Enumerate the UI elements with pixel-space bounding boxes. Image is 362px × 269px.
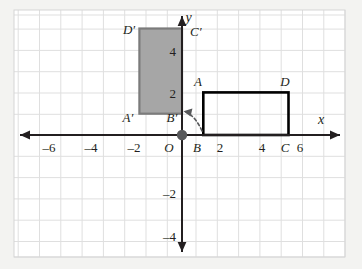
y-axis-label: y	[184, 10, 193, 25]
coordinate-plane-svg: y x –6 –4 –2 2 4 6 4 2 –2 –4 O D′ C′ A′ …	[0, 0, 362, 269]
vertex-label-b-prime: B′	[167, 110, 178, 125]
vertex-label-b: B	[193, 140, 201, 155]
y-tick-4: 4	[170, 44, 177, 59]
coordinate-plane-figure: y x –6 –4 –2 2 4 6 4 2 –2 –4 O D′ C′ A′ …	[0, 0, 362, 269]
y-tick-2: 2	[170, 86, 177, 101]
x-tick--4: –4	[84, 140, 99, 155]
vertex-label-d: D	[279, 74, 290, 89]
vertex-label-c: C	[281, 140, 290, 155]
x-tick--6: –6	[42, 140, 57, 155]
vertex-label-c-prime: C′	[190, 24, 202, 39]
vertex-label-a-prime: A′	[122, 110, 134, 125]
x-tick-4: 4	[259, 140, 266, 155]
x-axis-label: x	[317, 112, 325, 127]
origin-label: O	[164, 140, 174, 155]
x-tick--2: –2	[127, 140, 141, 155]
x-tick-2: 2	[217, 140, 224, 155]
origin-point	[177, 130, 187, 140]
y-tick--4: –4	[162, 229, 177, 244]
vertex-label-a: A	[193, 74, 202, 89]
y-tick--2: –2	[162, 186, 176, 201]
vertex-label-d-prime: D′	[122, 22, 135, 37]
x-tick-6: 6	[297, 140, 304, 155]
